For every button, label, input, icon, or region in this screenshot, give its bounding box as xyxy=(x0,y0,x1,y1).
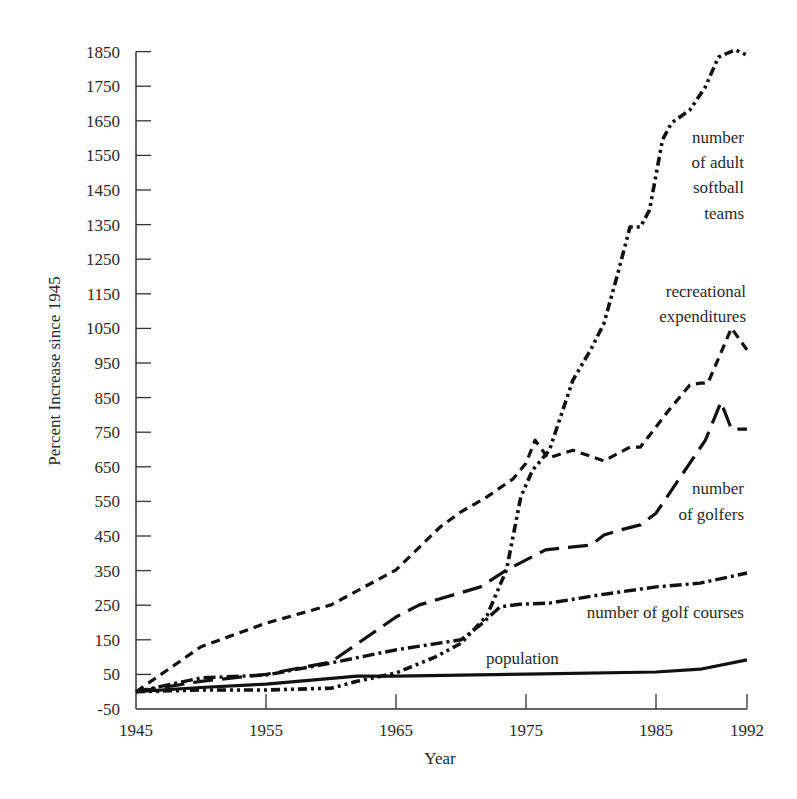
y-axis-title: Percent Increase since 1945 xyxy=(45,276,64,465)
x-tick-label: 1955 xyxy=(249,721,283,740)
series-label: softball xyxy=(693,178,744,197)
y-tick-label: 750 xyxy=(95,423,121,442)
y-tick-label: 1650 xyxy=(86,112,120,131)
series-label: number xyxy=(692,479,744,498)
series-line-number-of-golfers xyxy=(136,402,747,692)
series-lines xyxy=(136,50,747,692)
line-chart: -505015025035045055065075085095010501150… xyxy=(0,0,797,799)
series-label: number xyxy=(692,128,744,147)
y-tick-label: 1550 xyxy=(86,146,120,165)
series-label: recreational xyxy=(666,282,746,301)
y-tick-label: 1750 xyxy=(86,77,120,96)
y-tick-label: 550 xyxy=(95,492,121,511)
series-label: teams xyxy=(704,204,744,223)
y-tick-label: 1050 xyxy=(86,319,120,338)
y-tick-label: 250 xyxy=(95,596,121,615)
y-tick-label: 950 xyxy=(95,354,121,373)
series-label: of adult xyxy=(692,153,745,172)
series-labels: numberof adultsoftballteamsrecreationale… xyxy=(486,128,746,668)
series-line-number-of-adult-softball-teams xyxy=(136,50,747,692)
x-tick-label: 1965 xyxy=(379,721,413,740)
y-tick-label: 150 xyxy=(95,631,121,650)
y-tick-label: 450 xyxy=(95,527,121,546)
y-tick-label: -50 xyxy=(97,700,120,719)
series-label: expenditures xyxy=(659,307,746,326)
x-axis-title: Year xyxy=(424,749,456,768)
y-tick-label: 350 xyxy=(95,562,121,581)
y-tick-label: 50 xyxy=(103,665,120,684)
y-tick-label: 1250 xyxy=(86,250,120,269)
y-tick-label: 850 xyxy=(95,389,121,408)
x-tick-label: 1985 xyxy=(639,721,673,740)
series-label: number of golf courses xyxy=(587,603,744,622)
series-line-recreational-expenditures xyxy=(136,328,747,692)
x-tick-label: 1992 xyxy=(730,721,764,740)
y-tick-label: 650 xyxy=(95,458,121,477)
series-label: of golfers xyxy=(678,505,744,524)
axes: -505015025035045055065075085095010501150… xyxy=(86,43,764,740)
y-tick-label: 1150 xyxy=(87,285,120,304)
x-tick-label: 1945 xyxy=(119,721,153,740)
y-tick-label: 1450 xyxy=(86,181,120,200)
x-tick-label: 1975 xyxy=(509,721,543,740)
y-tick-label: 1350 xyxy=(86,216,120,235)
series-label: population xyxy=(486,649,559,668)
y-tick-label: 1850 xyxy=(86,43,120,62)
